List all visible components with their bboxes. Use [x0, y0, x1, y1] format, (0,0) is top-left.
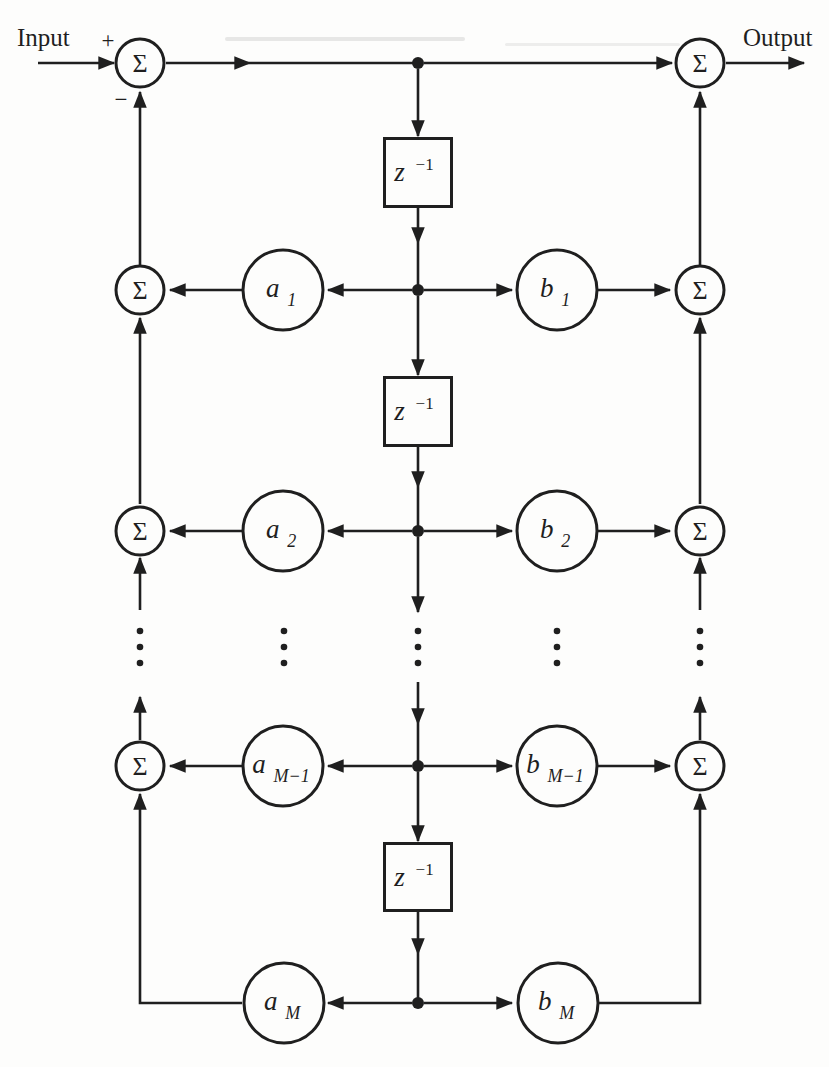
- coef-sub: M: [284, 1003, 301, 1023]
- coef-base: a: [266, 273, 280, 303]
- summer-symbol: Σ: [132, 752, 147, 781]
- coef-sub: M: [558, 1003, 575, 1023]
- coef-b2: b 2: [517, 491, 597, 571]
- delay-base: z: [393, 157, 405, 187]
- plus-sign: +: [102, 28, 115, 53]
- summer-symbol: Σ: [692, 517, 707, 546]
- vertical-ellipsis-a: [281, 628, 288, 667]
- junction-dot: [412, 525, 424, 537]
- delay-exponent: −1: [416, 860, 434, 879]
- summer-left-3: Σ: [116, 742, 164, 790]
- edge-aM-feedback: [140, 794, 242, 1003]
- vertical-ellipsis-center: [415, 628, 422, 667]
- coef-sub: 2: [561, 531, 570, 551]
- summer-left-2: Σ: [116, 507, 164, 555]
- summer-symbol: Σ: [692, 49, 707, 78]
- filter-block-diagram: Σ Σ Σ Σ Σ Σ Σ Σ z −1 z −1: [0, 0, 829, 1067]
- summer-symbol: Σ: [692, 276, 707, 305]
- edge-bM-feedforward: [598, 794, 700, 1003]
- summer-left-1: Σ: [116, 266, 164, 314]
- junction-dot: [412, 57, 424, 69]
- vertical-ellipsis-left-sum: [137, 628, 144, 667]
- coef-aM-1: a M−1: [243, 726, 323, 806]
- vertical-ellipsis-right-sum: [697, 628, 704, 667]
- coef-base: a: [252, 749, 266, 779]
- summer-symbol: Σ: [692, 752, 707, 781]
- summer-symbol: Σ: [132, 276, 147, 305]
- junction-dot: [412, 284, 424, 296]
- coef-a2: a 2: [243, 491, 323, 571]
- scan-artifact: [225, 37, 465, 41]
- coef-bM-1: b M−1: [517, 726, 597, 806]
- vertical-ellipsis-b: [554, 628, 561, 667]
- delay-box-2: z −1: [385, 378, 452, 446]
- coef-base: a: [266, 514, 280, 544]
- delay-base: z: [393, 862, 405, 892]
- delay-exponent: −1: [416, 155, 434, 174]
- minus-sign: −: [115, 87, 128, 112]
- coef-base: b: [526, 749, 540, 779]
- input-label: Input: [17, 24, 70, 51]
- coef-sub: M−1: [547, 766, 584, 786]
- summer-top-left: Σ: [116, 39, 164, 87]
- output-label: Output: [743, 24, 813, 51]
- summer-top-right: Σ: [676, 39, 724, 87]
- diagram-canvas: Σ Σ Σ Σ Σ Σ Σ Σ z −1 z −1: [0, 0, 829, 1067]
- coef-sub: 1: [561, 290, 570, 310]
- coef-a1: a 1: [243, 250, 323, 330]
- scan-artifact: [505, 43, 680, 46]
- coef-sub: 1: [287, 290, 296, 310]
- delay-box-1: z −1: [385, 139, 452, 207]
- coef-base: b: [538, 986, 552, 1016]
- delay-base: z: [393, 396, 405, 426]
- junction-dot: [412, 997, 424, 1009]
- delay-exponent: −1: [416, 394, 434, 413]
- junction-dot: [412, 760, 424, 772]
- coef-base: b: [540, 273, 554, 303]
- delay-box-3: z −1: [385, 844, 452, 911]
- coef-bM: b M: [518, 963, 598, 1043]
- coef-base: a: [264, 986, 278, 1016]
- coef-base: b: [540, 514, 554, 544]
- summer-right-1: Σ: [676, 266, 724, 314]
- coef-b1: b 1: [517, 250, 597, 330]
- summer-symbol: Σ: [132, 517, 147, 546]
- coef-sub: 2: [287, 531, 296, 551]
- summer-right-2: Σ: [676, 507, 724, 555]
- coef-aM: a M: [244, 963, 324, 1043]
- summer-right-3: Σ: [676, 742, 724, 790]
- summer-symbol: Σ: [132, 49, 147, 78]
- coef-sub: M−1: [273, 766, 310, 786]
